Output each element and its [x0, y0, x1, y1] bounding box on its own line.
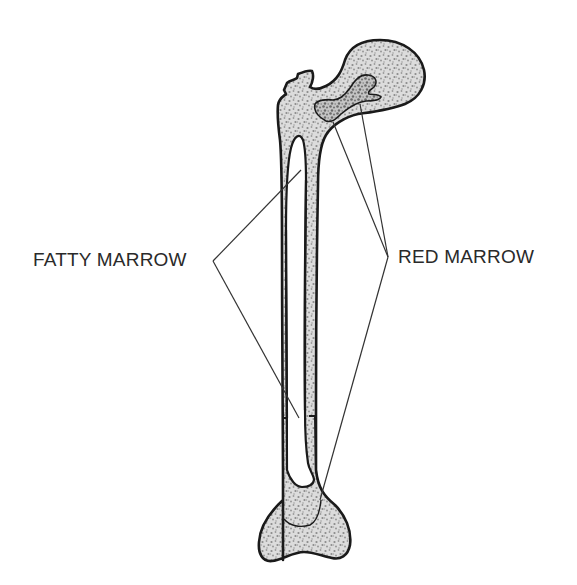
red-marrow-label: RED MARROW	[398, 246, 534, 268]
femur-diagram	[0, 0, 577, 585]
red-marrow-leader-lines	[320, 104, 388, 500]
shaft-cortex-right	[305, 180, 306, 410]
femur-bone-outline	[259, 40, 425, 561]
fatty-marrow-label: FATTY MARROW	[33, 249, 187, 271]
shaft-cortex-left	[286, 230, 287, 418]
